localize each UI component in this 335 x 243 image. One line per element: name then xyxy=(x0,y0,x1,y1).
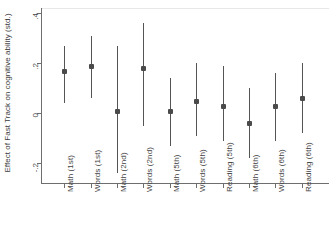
x-tick-mark xyxy=(91,183,92,188)
point-estimate-marker xyxy=(273,104,278,109)
y-tick-label: .4 xyxy=(35,13,36,14)
x-tick-label: Reading (5th) xyxy=(226,192,227,193)
x-tick-label: Reading (6th) xyxy=(305,192,306,193)
x-tick-mark xyxy=(249,183,250,188)
point-estimate-marker xyxy=(221,104,226,109)
y-tick-label-text: 0 xyxy=(31,113,41,117)
confidence-interval-bar xyxy=(64,46,65,104)
point-estimate-marker xyxy=(168,109,173,114)
y-axis-line xyxy=(41,8,42,183)
x-tick-label-text: Reading (5th) xyxy=(226,142,234,192)
point-estimate-marker xyxy=(141,66,146,71)
point-estimate-marker xyxy=(115,109,120,114)
x-tick-label: Math (5th) xyxy=(173,192,174,193)
point-estimate-marker xyxy=(300,96,305,101)
y-axis-title: Effect of Fast Track on cognitive abilit… xyxy=(2,0,14,188)
x-tick-label-text: Words (5th) xyxy=(199,149,207,192)
x-tick-label-text: Math (1st) xyxy=(67,155,75,192)
x-tick-label: Math (1st) xyxy=(67,192,68,193)
x-tick-label: Words (2nd) xyxy=(146,192,147,193)
x-tick-label-text: Reading (6th) xyxy=(305,142,313,192)
confidence-interval-bar xyxy=(143,23,144,126)
x-tick-label: Words (6th) xyxy=(278,192,279,193)
x-tick-label-text: Math (2nd) xyxy=(120,152,128,192)
point-estimate-marker xyxy=(89,64,94,69)
x-tick-label: Math (2nd) xyxy=(120,192,121,193)
x-tick-label-text: Math (5th) xyxy=(173,155,181,192)
y-tick-label: -.2 xyxy=(35,163,36,164)
plot-area: .4.20-.2 Math (1st)Words (1st)Math (2nd)… xyxy=(41,8,329,183)
x-tick-label-text: Words (2nd) xyxy=(146,147,154,192)
x-tick-label-text: Words (6th) xyxy=(278,149,286,192)
x-tick-mark xyxy=(302,183,303,188)
point-estimate-marker xyxy=(247,121,252,126)
y-tick-label-text: -.2 xyxy=(31,163,41,172)
point-estimate-marker xyxy=(62,69,67,74)
x-tick-label: Math (6th) xyxy=(252,192,253,193)
zero-reference-line xyxy=(42,8,329,9)
x-tick-mark xyxy=(223,183,224,188)
point-estimate-marker xyxy=(194,99,199,104)
y-tick-label: 0 xyxy=(35,113,36,114)
x-tick-mark xyxy=(117,183,118,188)
x-tick-mark xyxy=(170,183,171,188)
y-tick-label: .2 xyxy=(35,63,36,64)
y-tick-label-text: .4 xyxy=(31,13,41,20)
x-tick-label-text: Math (6th) xyxy=(252,155,260,192)
x-tick-label: Words (1st) xyxy=(94,192,95,193)
x-tick-label-text: Words (1st) xyxy=(94,150,102,192)
coefficient-plot-figure: Effect of Fast Track on cognitive abilit… xyxy=(0,0,335,243)
y-tick-label-text: .2 xyxy=(31,63,41,70)
x-tick-label: Words (5th) xyxy=(199,192,200,193)
